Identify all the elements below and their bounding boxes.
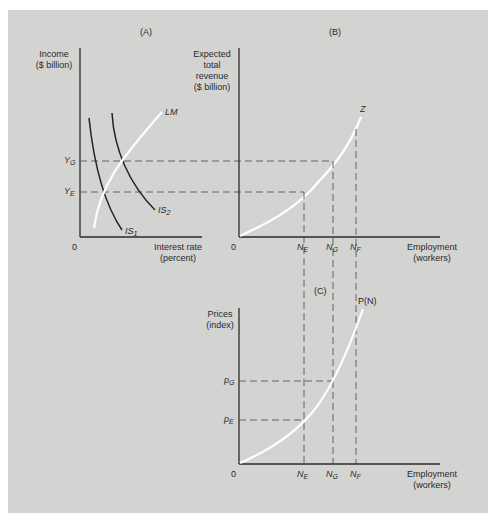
lm-label: LM bbox=[165, 107, 178, 118]
n-f-tick-c: NF bbox=[350, 469, 361, 482]
y-e-tick: YE bbox=[64, 186, 75, 199]
price-curve bbox=[240, 309, 363, 463]
panel-b-title: (B) bbox=[329, 27, 341, 38]
is1-label: IS1 bbox=[125, 226, 137, 239]
panel-a-title: (A) bbox=[140, 27, 152, 38]
z-curve bbox=[240, 117, 361, 236]
pn-label: P(N) bbox=[358, 296, 377, 307]
n-e-tick-c: NE bbox=[297, 469, 308, 482]
panel-c-title: (C) bbox=[314, 286, 327, 297]
is2-label: IS2 bbox=[158, 205, 170, 218]
panel-a-origin: 0 bbox=[72, 242, 77, 253]
n-e-tick-b: NE bbox=[297, 242, 308, 255]
n-g-tick-c: NG bbox=[326, 469, 338, 482]
y-g-tick: YG bbox=[64, 155, 75, 168]
panel-b-origin: 0 bbox=[231, 242, 236, 253]
panel-c-origin: 0 bbox=[231, 469, 236, 480]
p-g-tick: pG bbox=[224, 375, 234, 388]
is1-curve bbox=[89, 118, 122, 230]
revenue-axis-label: Expected total revenue ($ billion) bbox=[188, 49, 236, 93]
price-dashed-lines bbox=[239, 381, 333, 420]
n-f-tick-b: NF bbox=[350, 242, 361, 255]
z-label: Z bbox=[360, 104, 366, 115]
n-g-tick-b: NG bbox=[326, 242, 338, 255]
interest-rate-axis-label: Interest rate (percent) bbox=[148, 242, 208, 264]
employment-axis-label-c: Employment (workers) bbox=[402, 469, 462, 491]
employment-axis-label-b: Employment (workers) bbox=[402, 242, 462, 264]
income-axis-label: Income ($ billion) bbox=[30, 49, 78, 71]
prices-axis-label: Prices (index) bbox=[200, 309, 240, 331]
lm-curve bbox=[94, 112, 162, 228]
panel-b-axes bbox=[239, 48, 440, 237]
p-e-tick: pE bbox=[224, 414, 234, 427]
panel-c-axes bbox=[239, 308, 440, 464]
